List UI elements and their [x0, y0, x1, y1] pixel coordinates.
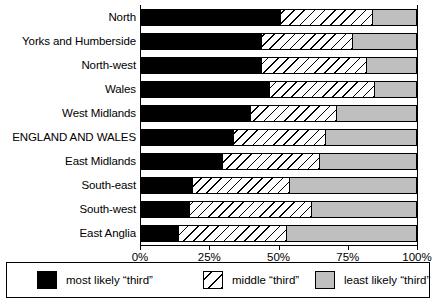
stacked-bar — [140, 81, 417, 98]
stacked-bar — [140, 57, 417, 74]
bar-segment — [193, 177, 290, 194]
bar-segment — [375, 81, 417, 98]
stacked-bar — [140, 105, 417, 122]
category-label: South-east — [0, 179, 140, 192]
category-label: North-west — [0, 59, 140, 72]
bar-segment — [262, 33, 353, 50]
legend-swatch-solid-gray — [315, 271, 335, 289]
category-label: Yorks and Humberside — [0, 35, 140, 48]
chart-row: South-east — [0, 173, 441, 197]
bar-segment — [140, 153, 223, 170]
bar-segment — [281, 9, 372, 26]
chart-row: East Midlands — [0, 149, 441, 173]
stacked-bar — [140, 129, 417, 146]
x-axis-tick — [209, 246, 210, 250]
chart-row: South-west — [0, 197, 441, 221]
bar-segment — [290, 177, 417, 194]
bar-segment — [140, 81, 270, 98]
bar-segment — [179, 225, 287, 242]
bar-segment — [140, 129, 234, 146]
y-axis-spine — [140, 5, 141, 245]
bar-segment — [190, 201, 312, 218]
stacked-bar — [140, 225, 417, 242]
chart-row: North-west — [0, 53, 441, 77]
chart-row: West Midlands — [0, 101, 441, 125]
stacked-bar — [140, 201, 417, 218]
stacked-bar-chart: NorthYorks and HumbersideNorth-westWales… — [0, 0, 441, 252]
bar-segment — [373, 9, 417, 26]
legend-label: most likely “third” — [66, 274, 153, 287]
category-label: East Anglia — [0, 227, 140, 240]
legend-entry: middle “third” — [203, 271, 299, 289]
bar-segment — [223, 153, 320, 170]
x-axis-tick — [140, 246, 141, 250]
chart-legend: most likely “third”middle “third”least l… — [6, 262, 430, 298]
stacked-bar — [140, 9, 417, 26]
stacked-bar — [140, 33, 417, 50]
chart-row: East Anglia — [0, 221, 441, 245]
stacked-bar — [140, 153, 417, 170]
bar-segment — [234, 129, 325, 146]
bar-segment — [140, 201, 190, 218]
bar-segment — [270, 81, 375, 98]
chart-row: North — [0, 5, 441, 29]
category-label: South-west — [0, 203, 140, 216]
bar-segment — [337, 105, 417, 122]
bar-segment — [287, 225, 417, 242]
bar-segment — [312, 201, 417, 218]
bar-segment — [140, 33, 262, 50]
category-label: North — [0, 11, 140, 24]
legend-swatch-solid-black — [37, 271, 57, 289]
category-label: West Midlands — [0, 107, 140, 120]
bar-segment — [326, 129, 417, 146]
legend-swatch-diagonal-hatch — [203, 271, 223, 289]
x-axis-tick — [279, 246, 280, 250]
plot-right-spine — [417, 5, 418, 245]
bar-segment — [251, 105, 337, 122]
legend-label: least likely “third” — [344, 274, 430, 287]
bar-segment — [140, 105, 251, 122]
category-label: Wales — [0, 83, 140, 96]
category-label: East Midlands — [0, 155, 140, 168]
x-axis-tick — [348, 246, 349, 250]
category-label: ENGLAND AND WALES — [0, 131, 140, 144]
legend-label: middle “third” — [232, 274, 299, 287]
legend-entry: least likely “third” — [315, 271, 430, 289]
bar-segment — [140, 177, 193, 194]
bar-segment — [140, 225, 179, 242]
chart-row: Wales — [0, 77, 441, 101]
bar-segment — [353, 33, 417, 50]
chart-row: Yorks and Humberside — [0, 29, 441, 53]
x-axis-tick — [417, 246, 418, 250]
stacked-bar — [140, 177, 417, 194]
bar-segment — [262, 57, 367, 74]
bar-segment — [367, 57, 417, 74]
bar-segment — [140, 9, 281, 26]
legend-entry: most likely “third” — [37, 271, 153, 289]
bar-segment — [320, 153, 417, 170]
chart-plot-rows: NorthYorks and HumbersideNorth-westWales… — [0, 5, 441, 245]
bar-segment — [140, 57, 262, 74]
chart-row: ENGLAND AND WALES — [0, 125, 441, 149]
